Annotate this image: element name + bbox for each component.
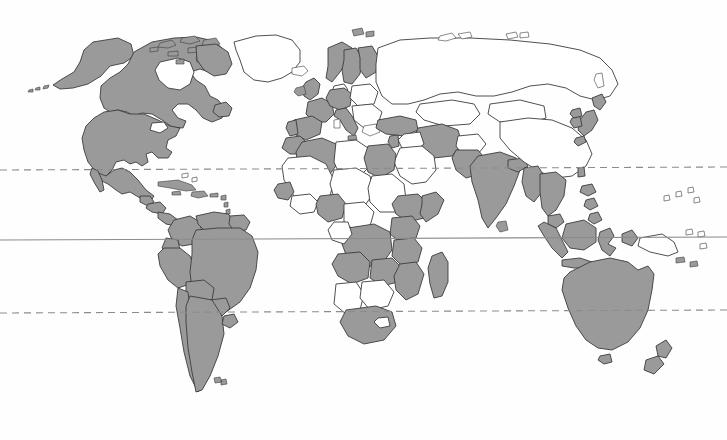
world-map-svg: .land { stroke:#3c3c3c; stroke-width:0.9… — [0, 0, 727, 440]
island-sicily — [348, 135, 357, 140]
world-map-figure: .land { stroke:#3c3c3c; stroke-width:0.9… — [0, 0, 727, 440]
island-jamaica — [172, 191, 181, 195]
island-puerto-rico — [210, 193, 218, 197]
page-root: World Map .land { stroke:#3c3c3c; stroke… — [0, 0, 727, 440]
country-poland-baltics — [350, 84, 378, 106]
island-sardinia-corsica — [334, 119, 340, 128]
island-taiwan — [578, 167, 585, 177]
